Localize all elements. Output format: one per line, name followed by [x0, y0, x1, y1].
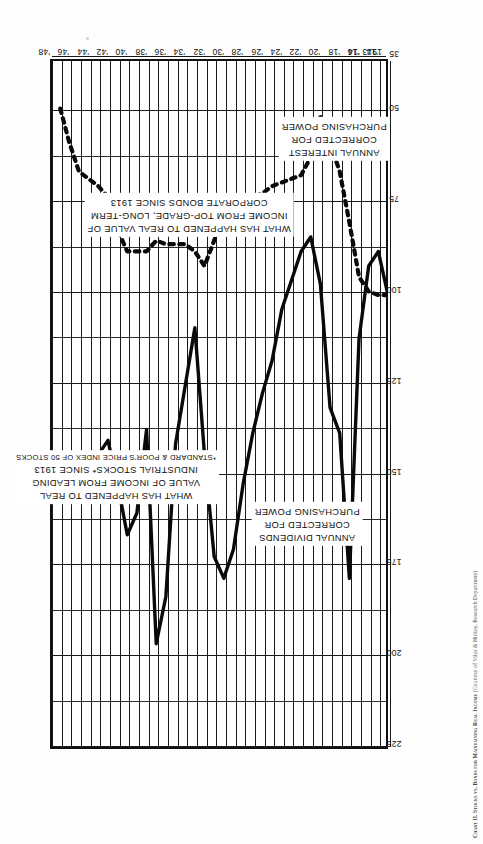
year-tick-label: '22 — [289, 47, 301, 57]
value-tick-label: 100 — [377, 285, 411, 295]
figure-caption: Chart II. Stocks vs. Bonds for Maintaini… — [472, 278, 478, 838]
bonds-note: WHAT HAS HAPPENED TO REAL VALUE OFINCOME… — [84, 193, 293, 237]
series-line-1 — [59, 237, 387, 644]
value-tick-label: 50 — [377, 104, 411, 114]
bonds-note-line-2: INCOME FROM TOP-GRADE, LONG-TERM — [87, 209, 290, 222]
dividends-note: ANNUAL DIVIDENDSCORRECTED FORPURCHASING … — [251, 502, 362, 546]
year-tick-label: '48 — [38, 47, 50, 57]
stocks-note-line-3: INDUSTRIAL STOCKS* SINCE 1913 — [15, 462, 215, 475]
year-tick-label: '32 — [192, 47, 204, 57]
year-tick-label: '26 — [250, 47, 262, 57]
year-tick-label: '46 — [57, 47, 69, 57]
year-tick-label: '20 — [308, 47, 320, 57]
stocks-note-line-2: VALUE OF INCOME FROM LEADING — [15, 475, 215, 488]
dividends-note-line-1: ANNUAL DIVIDENDS — [254, 530, 359, 543]
figure-page: 225200175150125100755035'14'16'18'20'22'… — [0, 0, 483, 844]
year-tick-label: '24 — [270, 47, 282, 57]
year-tick-label-start: 1913 '14 — [348, 47, 382, 57]
interest-note: ANNUAL INTERESTCORRECTED FORPURCHASING P… — [278, 117, 389, 161]
year-tick-label: '44 — [76, 47, 88, 57]
interest-note-line-2: CORRECTED FOR — [281, 132, 386, 145]
year-tick-label: '18 — [328, 47, 340, 57]
chart-plot-area: 225200175150125100755035'14'16'18'20'22'… — [42, 37, 442, 807]
year-tick-label: '30 — [212, 47, 224, 57]
year-tick-label: '36 — [154, 47, 166, 57]
rotated-chart-wrapper: 225200175150125100755035'14'16'18'20'22'… — [42, 37, 442, 807]
stocks-note-line-1: WHAT HAS HAPPENED TO REAL — [15, 489, 215, 502]
year-tick-label: '34 — [173, 47, 185, 57]
chart-curves — [50, 59, 388, 749]
interest-note-line-3: PURCHASING POWER — [281, 119, 386, 132]
year-tick-label: '42 — [96, 47, 108, 57]
stocks-note: WHAT HAS HAPPENED TO REALVALUE OF INCOME… — [12, 449, 218, 503]
value-tick-label: 75 — [377, 194, 411, 204]
grid-time-line — [390, 61, 391, 747]
series-svg — [50, 59, 388, 749]
dividends-note-line-2: CORRECTED FOR — [254, 517, 359, 530]
bonds-note-line-1: WHAT HAS HAPPENED TO REAL VALUE OF — [87, 222, 290, 235]
value-tick-label: 200 — [377, 648, 411, 658]
caption-lead: Chart II. Stocks vs. Bonds for Maintaini… — [472, 694, 478, 838]
year-tick-label: '40 — [115, 47, 127, 57]
value-tick-label: 225 — [377, 739, 411, 749]
dividends-note-line-3: PURCHASING POWER — [254, 504, 359, 517]
caption-credit: (Courtesy of Vilas & Hickey, Research De… — [472, 571, 478, 693]
stocks-note-footnote: *STANDARD & POOR'S PRICE INDEX OF 50 STO… — [15, 451, 215, 462]
year-tick-label: '28 — [231, 47, 243, 57]
interest-note-line-1: ANNUAL INTEREST — [281, 146, 386, 159]
value-tick-label: 125 — [377, 376, 411, 386]
year-tick-label: '38 — [134, 47, 146, 57]
value-tick-label: 150 — [377, 467, 411, 477]
bonds-note-line-3: CORPORATE BONDS SINCE 1913 — [87, 195, 290, 208]
value-tick-label: 175 — [377, 557, 411, 567]
